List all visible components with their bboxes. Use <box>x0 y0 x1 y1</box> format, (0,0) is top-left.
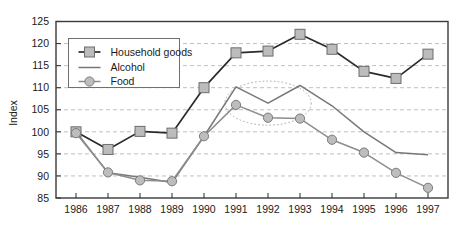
legend-label-household-goods: Household goods <box>111 46 193 58</box>
data-point-household-goods-1993 <box>295 29 305 39</box>
y-tick-label-120: 120 <box>31 37 49 49</box>
data-point-food-1993 <box>295 114 304 123</box>
x-tick-label-1994: 1994 <box>320 203 344 215</box>
y-tick-label-115: 115 <box>32 59 49 71</box>
data-point-food-1990 <box>199 132 208 141</box>
data-point-food-1986 <box>71 129 80 138</box>
series-line-alcohol <box>76 85 428 182</box>
legend-marker-circle-food <box>85 77 94 86</box>
y-tick-label-110: 110 <box>32 81 49 93</box>
data-point-food-1988 <box>135 176 144 185</box>
data-point-household-goods-1990 <box>199 83 209 93</box>
x-axis-ticks <box>76 193 428 198</box>
x-tick-label-1995: 1995 <box>352 203 376 215</box>
x-tick-label-1997: 1997 <box>416 203 440 215</box>
y-tick-label-125: 125 <box>31 15 49 27</box>
data-point-food-1989 <box>167 177 176 186</box>
data-point-household-goods-1992 <box>263 46 273 56</box>
data-point-household-goods-1991 <box>231 48 241 58</box>
data-point-household-goods-1994 <box>327 44 337 54</box>
x-tick-label-1991: 1991 <box>224 203 248 215</box>
data-point-food-1997 <box>423 183 432 192</box>
x-tick-label-1993: 1993 <box>288 203 312 215</box>
legend-label-food: Food <box>111 75 135 87</box>
data-point-household-goods-1988 <box>135 126 145 136</box>
chart-legend[interactable]: Household goodsAlcoholFood <box>69 39 193 88</box>
y-axis-tick-labels: 859095100105110115120125 <box>31 15 49 204</box>
data-point-food-1996 <box>391 168 400 177</box>
y-axis-ticks <box>56 22 61 199</box>
data-point-food-1994 <box>327 135 336 144</box>
x-tick-label-1989: 1989 <box>160 203 184 215</box>
data-point-household-goods-1996 <box>391 73 401 83</box>
data-point-food-1991 <box>231 100 240 109</box>
x-tick-label-1988: 1988 <box>128 203 152 215</box>
y-tick-label-85: 85 <box>37 192 49 204</box>
y-axis-title: Index <box>7 99 19 125</box>
legend-marker-square-household-goods <box>85 47 95 57</box>
data-point-food-1995 <box>359 148 368 157</box>
y-tick-label-95: 95 <box>37 148 49 160</box>
x-tick-label-1996: 1996 <box>384 203 408 215</box>
data-point-food-1987 <box>103 168 112 177</box>
data-point-household-goods-1997 <box>423 49 433 59</box>
x-tick-label-1992: 1992 <box>256 203 280 215</box>
data-point-household-goods-1987 <box>103 144 113 154</box>
data-point-household-goods-1995 <box>359 66 369 76</box>
chart-container: 859095100105110115120125 198619871988198… <box>0 0 461 236</box>
y-tick-label-100: 100 <box>31 126 49 138</box>
line-chart: 859095100105110115120125 198619871988198… <box>0 0 461 236</box>
data-point-food-1992 <box>263 113 272 122</box>
y-tick-label-90: 90 <box>37 170 49 182</box>
x-tick-label-1987: 1987 <box>96 203 120 215</box>
x-tick-label-1986: 1986 <box>64 203 88 215</box>
legend-label-alcohol: Alcohol <box>111 61 145 73</box>
data-point-household-goods-1989 <box>167 128 177 138</box>
y-tick-label-105: 105 <box>31 103 49 115</box>
x-tick-label-1990: 1990 <box>192 203 216 215</box>
x-axis-tick-labels: 1986198719881989199019911992199319941995… <box>64 203 440 215</box>
